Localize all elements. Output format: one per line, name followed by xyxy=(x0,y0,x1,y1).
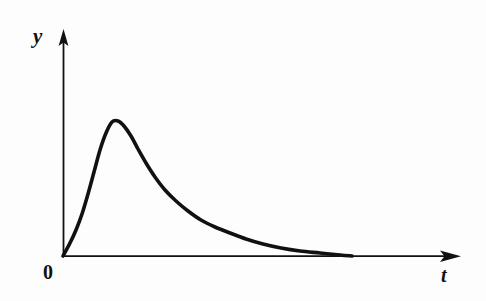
x-axis-label: t xyxy=(441,265,447,285)
y-axis-label: y xyxy=(33,26,42,47)
origin-label: 0 xyxy=(43,262,53,282)
data-curve xyxy=(63,120,352,256)
plot-canvas xyxy=(0,0,486,301)
figure-container: y t 0 xyxy=(0,0,486,301)
